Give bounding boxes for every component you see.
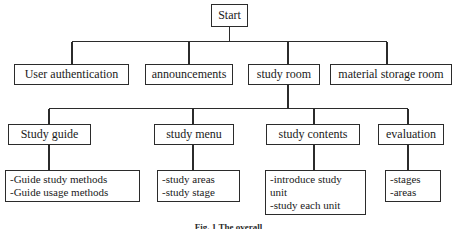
- node-announcements[interactable]: announcements: [145, 64, 233, 85]
- node-material-storage-room[interactable]: material storage room: [330, 64, 452, 85]
- node-start-label: Start: [214, 9, 245, 22]
- node-study-room-label: study room: [253, 68, 315, 81]
- node-study-contents-label: study contents: [275, 128, 352, 141]
- node-study-menu[interactable]: study menu: [154, 124, 234, 145]
- node-evaluation-label: evaluation: [382, 128, 440, 141]
- node-user-authentication-label: User authentication: [21, 68, 123, 81]
- study-contents-detail-line-3: -study each unit: [270, 199, 362, 212]
- node-study-guide-details[interactable]: -Guide study methods -Guide usage method…: [5, 170, 140, 202]
- figure-caption-text: Fig. 1 The overall: [195, 222, 262, 229]
- study-contents-detail-line-2: unit: [270, 186, 362, 199]
- node-evaluation[interactable]: evaluation: [378, 124, 444, 145]
- node-start[interactable]: Start: [211, 4, 248, 27]
- figure-caption: Fig. 1 The overall: [0, 222, 457, 229]
- node-study-contents-details[interactable]: -introduce study unit -study each unit: [265, 170, 366, 215]
- study-guide-details-lines: -Guide study methods -Guide usage method…: [6, 172, 139, 200]
- node-evaluation-details[interactable]: -stages -areas: [385, 170, 441, 202]
- node-study-guide[interactable]: Study guide: [8, 124, 91, 145]
- study-contents-details-lines: -introduce study unit -study each unit: [266, 172, 365, 213]
- flowchart-diagram: Start User authentication announcements …: [0, 0, 457, 229]
- evaluation-detail-line-2: -areas: [390, 186, 437, 199]
- study-guide-detail-line-1: -Guide study methods: [10, 173, 136, 186]
- node-material-storage-room-label: material storage room: [334, 68, 447, 81]
- study-menu-detail-line-2: -study stage: [162, 186, 236, 199]
- node-user-authentication[interactable]: User authentication: [14, 64, 129, 85]
- node-study-guide-label: Study guide: [17, 128, 83, 141]
- node-study-menu-details[interactable]: -study areas -study stage: [157, 170, 240, 202]
- study-menu-details-lines: -study areas -study stage: [158, 172, 239, 200]
- study-menu-detail-line-1: -study areas: [162, 173, 236, 186]
- node-study-menu-label: study menu: [162, 128, 226, 141]
- node-study-room[interactable]: study room: [248, 64, 320, 85]
- node-study-contents[interactable]: study contents: [266, 124, 360, 145]
- evaluation-detail-line-1: -stages: [390, 173, 437, 186]
- study-guide-detail-line-2: -Guide usage methods: [10, 186, 136, 199]
- study-contents-detail-line-1: -introduce study: [270, 173, 362, 186]
- evaluation-details-lines: -stages -areas: [386, 172, 440, 200]
- node-announcements-label: announcements: [148, 68, 231, 81]
